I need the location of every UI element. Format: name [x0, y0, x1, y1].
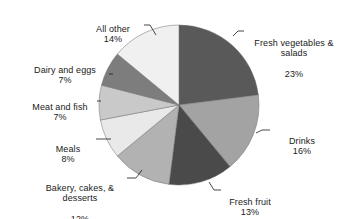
- slice-label-percent: 16%: [267, 146, 337, 157]
- slice-label-percent: 23%: [239, 69, 349, 80]
- slice-label-percent: 7%: [18, 112, 102, 123]
- slice-label-text-line1: Meals: [56, 144, 81, 154]
- slice-label-text-line1: Fresh fruit: [229, 197, 271, 207]
- slice-label-fresh-vegetables: Fresh vegetables & salads 23%: [239, 27, 349, 90]
- slice-label-text-line1: Dairy and eggs: [34, 65, 96, 75]
- pie-chart: Fresh vegetables & salads 23% Drinks 16%…: [0, 0, 352, 219]
- slice-label-bakery: Bakery, cakes, & desserts 12%: [28, 172, 132, 219]
- slice-label-meat-and-fish: Meat and fish 7%: [18, 91, 102, 133]
- slice-label-percent: 7%: [20, 75, 110, 86]
- slice-label-text-line1: Meat and fish: [32, 102, 87, 112]
- slice-label-dairy-and-eggs: Dairy and eggs 7%: [20, 54, 110, 96]
- slice-label-text-line1: Drinks: [289, 136, 315, 146]
- slice-label-percent: 14%: [82, 34, 144, 45]
- slice-label-text-line2: salads: [239, 48, 349, 59]
- slice-label-percent: 13%: [212, 207, 288, 218]
- slice-label-text-line1: Fresh vegetables &: [254, 38, 333, 48]
- slice-label-fresh-fruit: Fresh fruit 13%: [212, 186, 288, 219]
- slice-label-percent: 8%: [46, 154, 90, 165]
- slice-label-all-other: All other 14%: [82, 13, 144, 55]
- slice-label-text-line2: desserts: [28, 193, 132, 204]
- slice-label-percent: 12%: [28, 214, 132, 219]
- slice-label-meals: Meals 8%: [46, 133, 90, 175]
- slice-label-drinks: Drinks 16%: [267, 125, 337, 167]
- slice-label-text-line1: Bakery, cakes, &: [46, 183, 114, 193]
- slice-label-text-line1: All other: [96, 24, 130, 34]
